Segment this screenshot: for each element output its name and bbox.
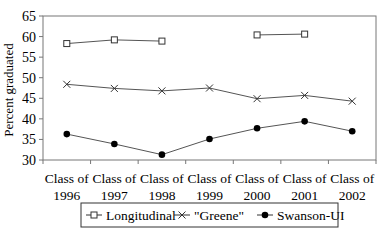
square-marker-icon: [64, 41, 70, 47]
x-tick-label: Class of1997: [92, 171, 136, 203]
x-tick-label: Class of2001: [283, 171, 327, 203]
x-tick-label: Class of1996: [45, 171, 89, 203]
chart-series: [63, 31, 355, 158]
square-marker-icon: [91, 212, 97, 218]
square-marker-icon: [159, 38, 165, 44]
y-tick-label: 40: [22, 112, 36, 127]
circle-marker-icon: [63, 131, 70, 138]
x-axis-labels: Class of1996Class of1997Class of1998Clas…: [45, 171, 375, 203]
circle-marker-icon: [206, 136, 213, 143]
y-tick-label: 65: [22, 9, 36, 24]
square-marker-icon: [302, 31, 308, 37]
legend-label: "Greene": [194, 208, 244, 223]
y-axis-title: Percent graduated: [1, 43, 16, 137]
square-marker-icon: [254, 32, 260, 38]
circle-marker-icon: [349, 128, 356, 135]
y-tick-label: 30: [22, 153, 36, 168]
circle-marker-icon: [111, 141, 118, 148]
circle-marker-icon: [159, 151, 166, 158]
y-tick-label: 35: [22, 132, 36, 147]
y-tick-label: 60: [22, 30, 36, 45]
x-tick-label: Class of1999: [188, 171, 232, 203]
y-tick-label: 45: [22, 91, 36, 106]
circle-marker-icon: [301, 118, 308, 125]
series-swanson-ui: [63, 118, 355, 158]
square-marker-icon: [111, 37, 117, 43]
y-tick-label: 50: [22, 71, 36, 86]
series-longitudinal: [64, 31, 308, 46]
legend-label: Longitudinal: [106, 208, 176, 223]
chart-legend: Longitudinal"Greene"Swanson-UI: [81, 203, 345, 227]
legend-label: Swanson-UI: [277, 208, 345, 223]
x-tick-label: Class of2000: [235, 171, 279, 203]
chart-canvas: 3035404550556065 Class of1996Class of199…: [0, 0, 381, 230]
circle-marker-icon: [262, 212, 269, 219]
line-chart: 3035404550556065 Class of1996Class of199…: [0, 0, 381, 230]
x-tick-label: Class of1998: [140, 171, 184, 203]
circle-marker-icon: [254, 125, 261, 132]
x-tick-label: Class of2002: [330, 171, 374, 203]
series-greene: [63, 81, 355, 105]
y-tick-label: 55: [22, 50, 36, 65]
